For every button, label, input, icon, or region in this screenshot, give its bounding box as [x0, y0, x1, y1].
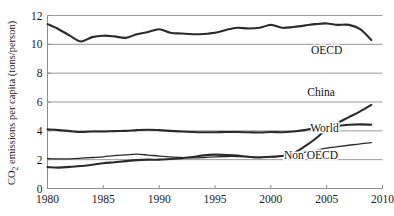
y-tick-label-10: 10	[31, 38, 43, 50]
series-label-non-oecd: Non OECD	[284, 149, 338, 161]
y-tick-label-2: 2	[37, 154, 43, 166]
x-tick-label-1985: 1985	[92, 193, 115, 205]
y-axis-title-text: CO2 emissions per capita (tons/person)	[6, 20, 20, 185]
y-axis-title: CO2 emissions per capita (tons/person)	[6, 20, 20, 185]
y-tick-label-6: 6	[37, 96, 43, 108]
y-tick-label-8: 8	[37, 67, 43, 79]
co2-emissions-line-chart: 024681012 1980198519901995200020052010 O…	[0, 0, 394, 216]
series-label-china: China	[307, 86, 334, 98]
x-tick-label-2010: 2010	[371, 193, 394, 205]
y-tick-label-4: 4	[37, 125, 43, 137]
x-tick-label-1980: 1980	[36, 193, 59, 205]
x-tick-label-2000: 2000	[259, 193, 282, 205]
x-tick-label-1990: 1990	[148, 193, 171, 205]
y-axis-title-suffix: emissions per capita (tons/person)	[6, 20, 18, 166]
x-tick-marks	[48, 185, 383, 189]
series-label-oecd: OECD	[311, 44, 342, 56]
y-tick-label-12: 12	[31, 10, 43, 22]
x-tick-labels: 1980198519901995200020052010	[36, 193, 394, 205]
y-tick-marks	[48, 16, 52, 189]
series-label-world: World	[310, 122, 339, 134]
x-tick-label-1995: 1995	[204, 193, 227, 205]
series-line-oecd	[48, 23, 372, 41]
chart-container: 024681012 1980198519901995200020052010 O…	[0, 0, 394, 216]
x-tick-label-2005: 2005	[315, 193, 338, 205]
y-tick-labels: 024681012	[31, 10, 43, 195]
y-axis-title-prefix: CO	[6, 170, 17, 185]
